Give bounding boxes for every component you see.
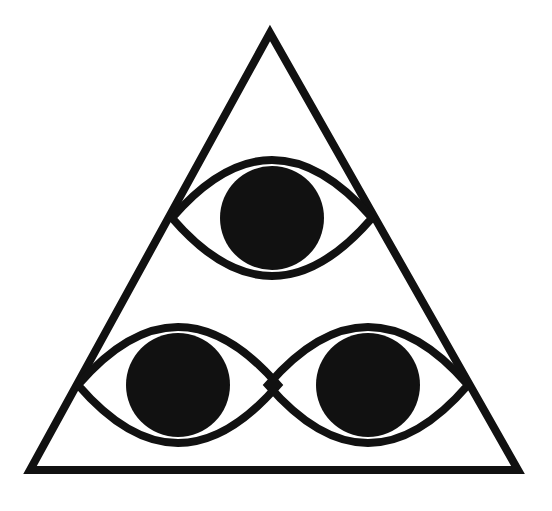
eye-triangle-figure [0,0,552,511]
pupil [126,333,230,437]
pupil [220,166,324,270]
top-eye-icon [172,160,372,276]
bottom-left-eye-icon [78,327,278,443]
pupil [316,333,420,437]
bottom-right-eye-icon [268,327,468,443]
